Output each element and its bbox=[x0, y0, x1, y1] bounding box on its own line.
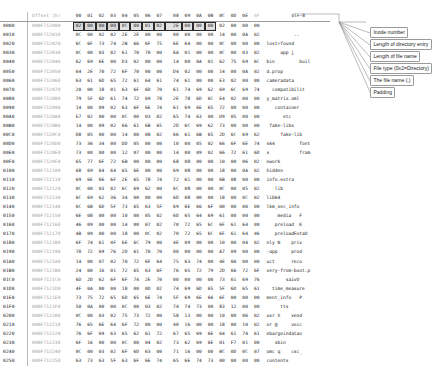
hex-byte[interactable]: 02 bbox=[130, 58, 142, 67]
hex-byte[interactable]: 00 bbox=[205, 239, 217, 248]
hex-byte[interactable]: 6E bbox=[165, 40, 182, 49]
hex-byte[interactable]: 00 bbox=[205, 321, 217, 330]
hex-row[interactable]: 01F0000F7121F0500A00000C0003027474730083… bbox=[0, 303, 330, 312]
hex-byte[interactable]: 72 bbox=[182, 230, 194, 239]
hex-byte[interactable]: 02 bbox=[251, 185, 263, 194]
hex-byte[interactable]: 69 bbox=[193, 122, 205, 131]
hex-row[interactable]: 0030000F7120300C000302617070006A0100000C… bbox=[0, 49, 330, 58]
hex-byte[interactable]: 18 bbox=[96, 85, 108, 94]
hex-byte[interactable]: 2E bbox=[165, 94, 182, 103]
hex-byte[interactable]: 00 bbox=[205, 312, 217, 321]
hex-byte[interactable]: 00 bbox=[239, 257, 251, 266]
hex-byte[interactable]: 01 bbox=[107, 266, 119, 275]
hex-byte[interactable]: 67 bbox=[165, 330, 182, 339]
hex-byte[interactable]: 07 bbox=[130, 149, 142, 158]
hex-byte[interactable]: 70 bbox=[154, 85, 166, 94]
hex-byte[interactable]: 02 bbox=[251, 194, 263, 203]
hex-byte[interactable]: 00 bbox=[239, 103, 251, 112]
hex-byte[interactable]: 6E bbox=[193, 293, 205, 302]
hex-byte[interactable]: 18 bbox=[119, 284, 131, 293]
hex-byte[interactable]: 64 bbox=[216, 330, 228, 339]
hex-byte[interactable]: 00 bbox=[84, 31, 96, 40]
hex-byte[interactable]: 05 bbox=[130, 140, 142, 149]
hex-byte[interactable]: 62 bbox=[216, 58, 228, 67]
hex-byte[interactable]: 69 bbox=[239, 58, 251, 67]
hex-row[interactable]: 0250000F7122506373635F636F6E74656E747300… bbox=[0, 357, 330, 366]
hex-byte[interactable]: 69 bbox=[96, 330, 108, 339]
hex-byte[interactable]: 5F bbox=[107, 203, 119, 212]
hex-byte[interactable]: 63 bbox=[142, 203, 154, 212]
hex-byte[interactable]: 00 bbox=[251, 113, 263, 122]
hex-byte[interactable]: 00 bbox=[239, 303, 251, 312]
hex-row[interactable]: 0190000F712190707269762D61707000000000A7… bbox=[0, 248, 330, 257]
hex-byte[interactable]: 75 bbox=[119, 312, 131, 321]
hex-byte[interactable]: 6E bbox=[142, 357, 154, 366]
hex-row[interactable]: 0060000F71206063616D657261646174610000E3… bbox=[0, 76, 330, 85]
hex-byte[interactable]: 00 bbox=[205, 40, 217, 49]
hex-byte[interactable]: 73 bbox=[193, 303, 205, 312]
hex-byte[interactable]: 69 bbox=[193, 85, 205, 94]
hex-byte[interactable]: 0A bbox=[84, 303, 96, 312]
hex-byte[interactable]: 6E bbox=[182, 357, 194, 366]
hex-byte[interactable]: 65 bbox=[205, 284, 217, 293]
hex-byte[interactable]: 00 bbox=[84, 122, 96, 131]
hex-byte[interactable]: 00 bbox=[239, 293, 251, 302]
hex-byte[interactable]: 64 bbox=[142, 76, 154, 85]
hex-byte[interactable]: 75 bbox=[165, 257, 182, 266]
hex-byte[interactable]: 00 bbox=[154, 167, 166, 176]
hex-byte[interactable]: 63 bbox=[142, 266, 154, 275]
hex-byte[interactable]: 05 bbox=[228, 113, 240, 122]
hex-byte[interactable]: 69 bbox=[239, 131, 251, 140]
hex-byte[interactable]: 14 bbox=[216, 31, 228, 40]
hex-byte[interactable]: 64 bbox=[107, 167, 119, 176]
hex-byte[interactable]: 2E bbox=[142, 275, 154, 284]
hex-byte[interactable]: 00 bbox=[216, 357, 228, 366]
hex-byte[interactable]: 00 bbox=[205, 275, 217, 284]
hex-byte[interactable]: 02 bbox=[107, 122, 119, 131]
hex-byte[interactable]: 00 bbox=[130, 158, 142, 167]
hex-byte[interactable]: 6E bbox=[130, 167, 142, 176]
hex-byte[interactable]: 61 bbox=[165, 85, 182, 94]
hex-row[interactable]: 01D0000F7121D04F0A000018000D0274696D655F… bbox=[0, 284, 330, 293]
hex-byte[interactable]: 6D bbox=[119, 293, 131, 302]
hex-byte[interactable]: 6E bbox=[142, 103, 154, 112]
hex-byte[interactable]: 00 bbox=[182, 31, 194, 40]
hex-byte[interactable]: 07 bbox=[251, 348, 263, 357]
hex-byte[interactable]: 63 bbox=[119, 85, 131, 94]
hex-byte[interactable]: 00 bbox=[84, 266, 96, 275]
hex-byte[interactable]: 64 bbox=[182, 40, 194, 49]
hex-byte[interactable]: 62 bbox=[205, 85, 217, 94]
hex-byte[interactable]: 5F bbox=[107, 357, 119, 366]
hex-byte[interactable]: 00 bbox=[130, 194, 142, 203]
hex-byte[interactable]: 00 bbox=[193, 275, 205, 284]
hex-byte[interactable]: 69 bbox=[193, 330, 205, 339]
hex-byte[interactable]: 6E bbox=[84, 176, 96, 185]
hex-byte[interactable]: 00 bbox=[193, 76, 205, 85]
hex-row[interactable]: 01B0000F7121B0240016017265636F766572792D… bbox=[0, 266, 330, 275]
hex-byte[interactable]: 74 bbox=[193, 257, 205, 266]
hex-byte[interactable]: 16 bbox=[182, 321, 194, 330]
hex-byte[interactable]: 63 bbox=[73, 357, 85, 366]
hex-byte[interactable]: 76 bbox=[73, 321, 85, 330]
hex-byte[interactable]: 6E bbox=[119, 239, 131, 248]
hex-byte[interactable]: 00 bbox=[205, 303, 217, 312]
hex-byte-padding[interactable]: 00 bbox=[193, 22, 205, 32]
hex-byte[interactable]: E4 bbox=[216, 94, 228, 103]
hex-row[interactable]: 0220000F712220766F6963656261726765696E64… bbox=[0, 330, 330, 339]
hex-byte[interactable]: 69 bbox=[84, 194, 96, 203]
hex-byte[interactable]: 62 bbox=[96, 194, 108, 203]
hex-byte[interactable]: 72 bbox=[228, 149, 240, 158]
hex-byte[interactable]: 69 bbox=[182, 103, 194, 112]
hex-byte[interactable]: 00 bbox=[107, 230, 119, 239]
hex-byte[interactable]: 66 bbox=[216, 149, 228, 158]
hex-byte[interactable]: 14 bbox=[216, 67, 228, 76]
hex-byte[interactable]: 73 bbox=[130, 312, 142, 321]
hex-byte[interactable]: 0A bbox=[228, 257, 240, 266]
hex-table[interactable]: Offset (h) 000102030405060708090A0B0C0D0… bbox=[0, 12, 330, 366]
hex-byte[interactable]: 6C bbox=[205, 94, 217, 103]
hex-byte[interactable]: 61 bbox=[107, 94, 119, 103]
hex-byte[interactable]: 00 bbox=[84, 312, 96, 321]
hex-byte[interactable]: 00 bbox=[84, 103, 96, 112]
hex-byte[interactable]: 66 bbox=[119, 122, 131, 131]
hex-byte[interactable]: 00 bbox=[154, 158, 166, 167]
